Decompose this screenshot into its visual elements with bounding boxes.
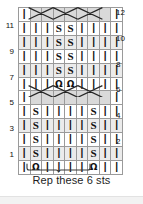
knit-stitch-symbol: | (54, 119, 65, 132)
knit-stitch-symbol: | (19, 91, 30, 104)
row-number-1: 1 (0, 151, 14, 159)
knit-stitch-symbol: | (19, 105, 30, 118)
chart-row: |||SS|||| (19, 63, 123, 77)
knit-stitch-symbol: | (77, 147, 88, 160)
chart-cell: | (76, 105, 88, 119)
chart-cell: | (19, 21, 31, 35)
s-twist-stitch-symbol: S (65, 22, 76, 35)
chart-cell: | (88, 21, 100, 35)
knit-stitch-symbol: | (100, 64, 111, 77)
chart-cell: | (30, 77, 42, 91)
chart-cell: | (76, 77, 88, 91)
knit-stitch-symbol: | (77, 133, 88, 146)
knit-stitch-symbol: | (19, 36, 30, 49)
knit-stitch-symbol: | (65, 147, 76, 160)
knit-stitch-symbol: | (19, 50, 30, 63)
chart-cell: | (65, 119, 77, 133)
chart-cell: | (76, 49, 88, 63)
chart-cell: | (88, 35, 100, 49)
knit-stitch-symbol: | (100, 105, 111, 118)
chart-cell: | (76, 147, 88, 161)
knit-stitch-symbol: | (88, 64, 99, 77)
chart-cell: S (65, 21, 77, 35)
chart-cell (42, 91, 54, 105)
chart-cell: | (65, 133, 77, 147)
chart-cell: | (65, 147, 77, 161)
chart-cell (30, 8, 42, 22)
chart-cell: | (99, 49, 111, 63)
chart-cell: | (42, 77, 54, 91)
chart-cell (76, 91, 88, 105)
chart-cell (65, 91, 77, 105)
chart-cell (76, 8, 88, 22)
chart-cell: | (42, 147, 54, 161)
chart-cell: | (42, 63, 54, 77)
chart-cell: S (53, 35, 65, 49)
chart-cell: | (19, 105, 31, 119)
s-twist-stitch-symbol: S (54, 64, 65, 77)
chart-cell: | (88, 63, 100, 77)
row-number-12: 12 (116, 9, 134, 17)
chart-cell: | (76, 35, 88, 49)
s-twist-stitch-symbol: S (88, 119, 99, 132)
chart-cell: | (99, 77, 111, 91)
chart-cell: | (42, 119, 54, 133)
s-twist-stitch-symbol: S (65, 50, 76, 63)
knit-stitch-symbol: | (77, 50, 88, 63)
chart-cell: S (30, 119, 42, 133)
chart-cell: S (65, 35, 77, 49)
knit-stitch-symbol: | (111, 147, 122, 160)
chart-cell: | (19, 35, 31, 49)
chart-cell: | (111, 119, 123, 133)
chart-cell (53, 91, 65, 105)
knit-stitch-symbol: | (19, 22, 30, 35)
chart-row: |||ΩΩ|||| (19, 77, 123, 91)
knit-stitch-symbol: | (100, 78, 111, 91)
knit-stitch-symbol: | (77, 36, 88, 49)
chart-cell: | (76, 119, 88, 133)
knit-stitch-symbol: | (88, 78, 99, 91)
chart-cell: S (30, 147, 42, 161)
chart-cell: | (19, 91, 31, 105)
knit-stitch-symbol: | (77, 105, 88, 118)
knit-stitch-symbol: | (100, 119, 111, 132)
s-twist-stitch-symbol: S (88, 133, 99, 146)
knit-stitch-symbol: | (42, 133, 53, 146)
knitting-chart: |||||SS|||||||SS|||||||SS|||||||SS||||||… (0, 0, 143, 204)
chart-cell (88, 8, 100, 22)
chart-cell: | (65, 105, 77, 119)
knit-stitch-symbol: | (31, 50, 42, 63)
knit-stitch-symbol: | (42, 36, 53, 49)
chart-row: || (19, 8, 123, 22)
row-number-9: 9 (0, 48, 14, 56)
chart-cell: | (30, 49, 42, 63)
knit-stitch-symbol: | (19, 8, 30, 21)
knit-stitch-symbol: | (42, 64, 53, 77)
chart-row: |||SS|||| (19, 35, 123, 49)
chart-cell: | (99, 160, 111, 174)
chart-cell (42, 8, 54, 22)
repeat-bracket (26, 163, 91, 173)
knit-stitch-symbol: | (65, 119, 76, 132)
knit-stitch-symbol: | (100, 133, 111, 146)
s-twist-stitch-symbol: S (31, 133, 42, 146)
s-twist-stitch-symbol: S (54, 22, 65, 35)
row-number-6: 6 (116, 86, 134, 94)
omega-twist-stitch-symbol: Ω (65, 78, 76, 91)
knit-stitch-symbol: | (77, 22, 88, 35)
chart-cell: S (53, 63, 65, 77)
knit-stitch-symbol: | (42, 22, 53, 35)
row-number-10: 10 (116, 35, 134, 43)
knit-stitch-symbol: | (111, 119, 122, 132)
knit-stitch-symbol: | (19, 119, 30, 132)
chart-cell: S (88, 105, 100, 119)
chart-cell: | (42, 35, 54, 49)
s-twist-stitch-symbol: S (65, 36, 76, 49)
chart-cell: | (19, 133, 31, 147)
knit-stitch-symbol: | (54, 147, 65, 160)
knit-stitch-symbol: | (19, 78, 30, 91)
chart-cell: | (99, 119, 111, 133)
chart-cell: | (19, 8, 31, 22)
s-twist-stitch-symbol: S (65, 64, 76, 77)
knit-stitch-symbol: | (42, 50, 53, 63)
